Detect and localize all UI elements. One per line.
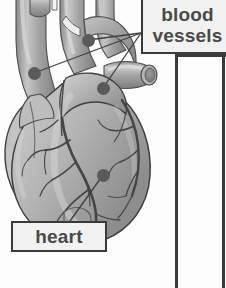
callout-label-blood-vessels-line2: vessels <box>152 26 222 46</box>
frame-line-inner <box>175 54 178 288</box>
heart-anatomy-figure: blood vessels heart <box>0 0 226 288</box>
leader-line-vessel-3 <box>103 33 141 88</box>
leader-dot-vessel-3 <box>97 82 110 95</box>
leader-dot-heart-1 <box>97 169 110 182</box>
frame-line-outer <box>222 54 225 288</box>
callout-label-heart-line1: heart <box>35 227 82 247</box>
frame-line-horizontal <box>175 54 226 57</box>
callout-label-heart: heart <box>11 221 107 252</box>
leader-dot-vessel-2 <box>28 67 41 80</box>
leader-line-heart-1 <box>70 175 103 221</box>
leader-dot-vessel-1 <box>82 34 95 47</box>
callout-label-blood-vessels: blood vessels <box>141 0 226 54</box>
callout-label-blood-vessels-line1: blood <box>161 5 214 25</box>
